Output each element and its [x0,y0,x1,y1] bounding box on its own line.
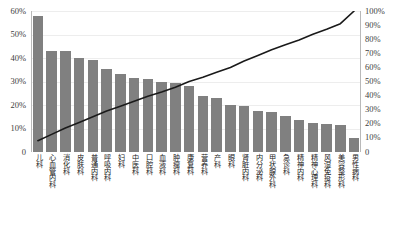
bar-slot [31,11,45,152]
x-label-slot: 风湿免疫科 [320,154,334,234]
right-axis-tick-label: 80% [365,35,381,44]
x-label-slot: 急诊科 [279,154,293,234]
right-axis-tick-label: 50% [365,77,381,86]
bar [308,123,319,152]
x-label-slot: 康复科 [182,154,196,234]
bar [33,16,44,152]
x-axis-tick-label: 呼吸内科 [103,154,110,181]
left-axis-tick-label: 40% [0,54,26,63]
bar-slot [292,11,306,152]
bar-slot [279,11,293,152]
x-axis-tick-label: 精神内科 [295,154,302,181]
bar-series [31,11,361,152]
bar-slot [265,11,279,152]
x-axis-tick-label: 美容整形科 [337,154,344,188]
plot-area [31,11,361,152]
left-axis-tick-label: 10% [0,124,26,133]
x-label-slot: 皮肤科 [72,154,86,234]
bar-slot [127,11,141,152]
x-axis-tick-label: 皮肤科 [75,154,82,174]
bar-slot [59,11,73,152]
left-axis-tick-label: 30% [0,77,26,86]
left-axis-tick-label: 50% [0,30,26,39]
bar [253,111,264,152]
bar [101,69,112,152]
bar [60,51,71,152]
x-label-slot: 内分泌科 [251,154,265,234]
bar-slot [86,11,100,152]
bar [156,82,167,153]
left-axis-tick-label: 20% [0,101,26,110]
bar-slot [210,11,224,152]
x-label-slot: 血液科 [155,154,169,234]
x-label-slot: 眼科 [224,154,238,234]
bar-slot [320,11,334,152]
bar [46,51,57,152]
x-axis-tick-label: 心血管内科 [48,154,55,188]
x-label-slot: 肾脏内科 [237,154,251,234]
right-axis-tick-label: 20% [365,119,381,128]
bar [198,96,209,152]
bar-slot [169,11,183,152]
bar-slot [237,11,251,152]
x-label-slot: 精神心理科 [306,154,320,234]
bar [266,112,277,152]
bar [225,105,236,152]
bar-slot [72,11,86,152]
bar [294,120,305,152]
right-axis-tick-label: 0 [365,148,369,157]
x-label-slot: 呼吸内科 [100,154,114,234]
bar-slot [196,11,210,152]
x-axis-tick-label: 妇科 [117,154,124,168]
bar [115,74,126,152]
x-axis-tick-label: 产科 [213,154,220,168]
x-axis-tick-label: 内分泌科 [254,154,261,181]
right-axis-tick-label: 70% [365,49,381,58]
x-label-slot: 儿科 [31,154,45,234]
right-axis-tick-label: 10% [365,133,381,142]
bar [88,60,99,152]
x-axis-tick-label: 精神心理科 [309,154,316,188]
x-label-slot: 甲状腺外科 [265,154,279,234]
x-label-slot: 产科 [210,154,224,234]
x-axis-tick-label: 口腔科 [144,154,151,174]
bar [143,79,154,152]
x-label-slot: 心血管内科 [45,154,59,234]
right-axis-tick-label: 60% [365,63,381,72]
x-label-slot: 营养科 [196,154,210,234]
x-axis-tick-label: 消化科 [62,154,69,174]
bar-slot [251,11,265,152]
x-label-slot: 消化科 [59,154,73,234]
x-axis-tick-label: 肾脏内科 [240,154,247,181]
bar-slot [141,11,155,152]
x-axis-tick-label: 风湿免疫科 [323,154,330,188]
x-label-slot: 中医科 [127,154,141,234]
x-label-slot: 妇科 [114,154,128,234]
bar [184,86,195,152]
bar-slot [182,11,196,152]
bar-slot [155,11,169,152]
x-label-slot: 精神内科 [292,154,306,234]
bar-slot [114,11,128,152]
right-axis-tick-label: 90% [365,21,381,30]
bar [74,58,85,152]
x-axis-tick-label: 普通内科 [89,154,96,181]
right-axis-tick-label: 100% [365,7,385,16]
x-axis-tick-label: 中医科 [130,154,137,174]
bar [170,83,181,152]
bar [321,124,332,152]
x-label-slot: 口腔科 [141,154,155,234]
x-axis-tick-label: 儿科 [34,154,41,168]
x-axis-tick-label: 男性病科 [350,154,357,181]
bar-slot [347,11,361,152]
bar-slot [224,11,238,152]
x-label-slot: 男性病科 [347,154,361,234]
x-axis-tick-label: 营养科 [199,154,206,174]
bar-slot [306,11,320,152]
bar-slot [45,11,59,152]
right-axis-tick-label: 40% [365,91,381,100]
x-axis-tick-label: 肿瘤科 [172,154,179,174]
bar [211,98,222,152]
bar-slot [334,11,348,152]
x-axis-tick-label: 血液科 [158,154,165,174]
